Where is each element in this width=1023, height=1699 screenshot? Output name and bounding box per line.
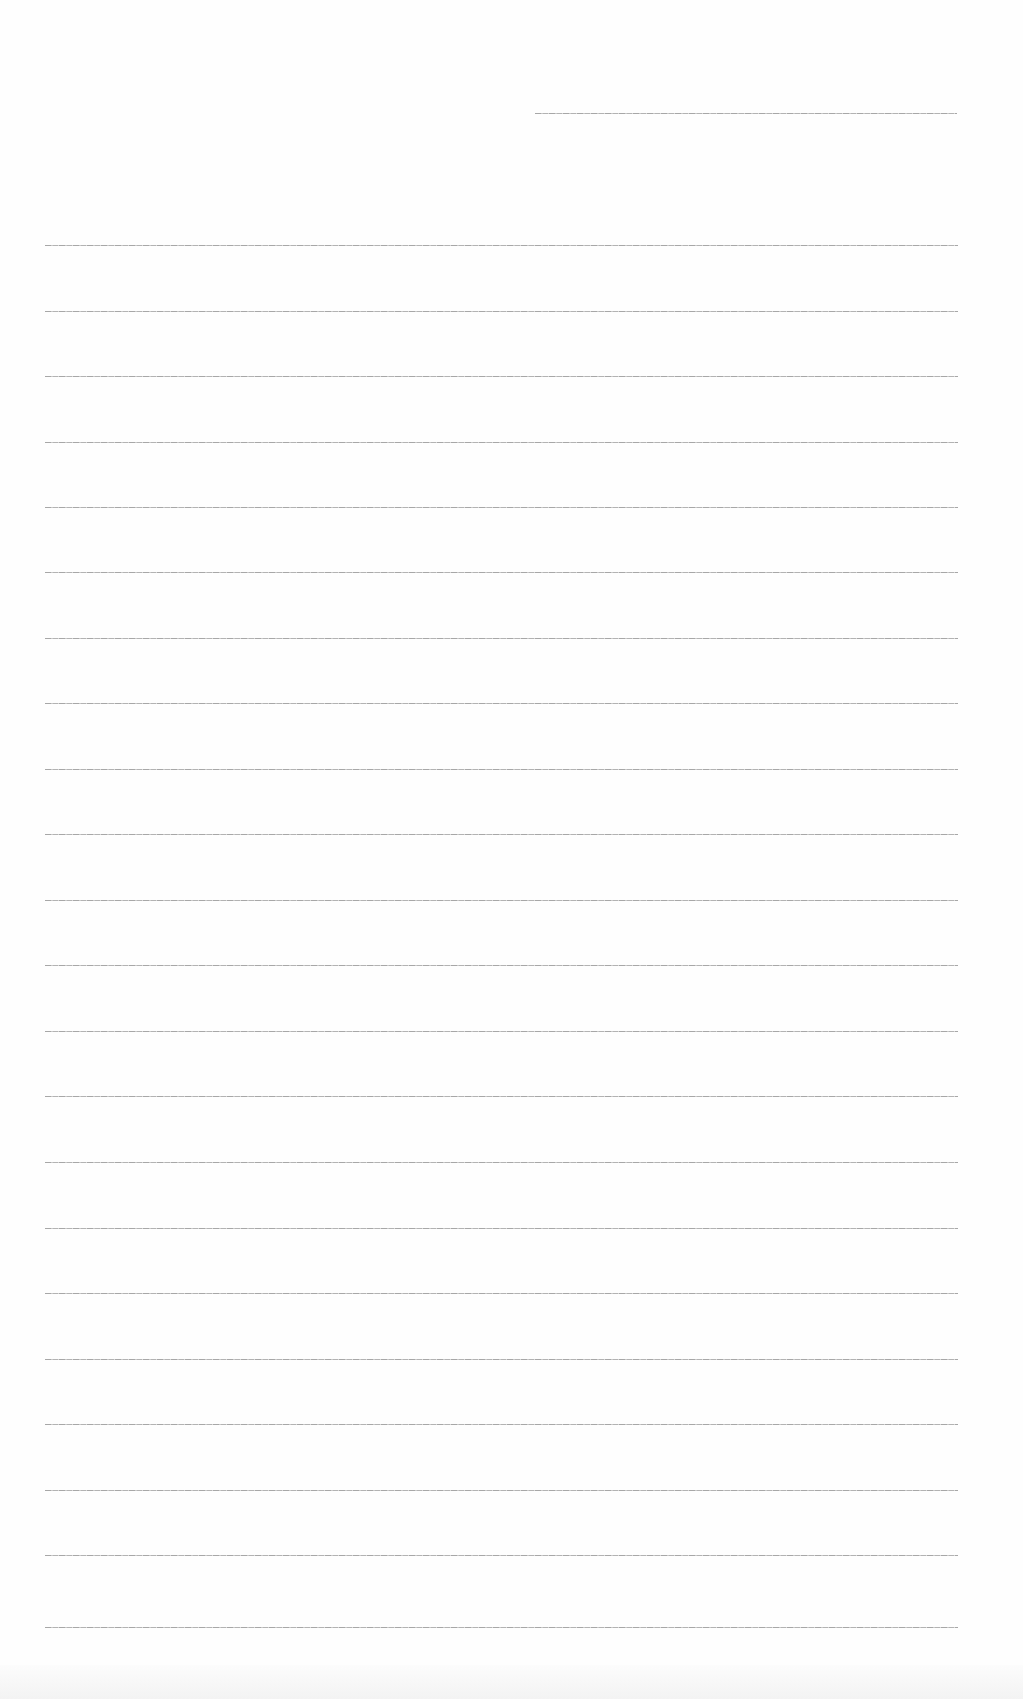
body-rule-line bbox=[45, 1096, 958, 1097]
header-rule-line bbox=[535, 113, 957, 114]
body-rule-line bbox=[45, 376, 958, 377]
body-rule-line bbox=[45, 311, 958, 312]
body-rule-line bbox=[45, 1228, 958, 1229]
body-rule-line bbox=[45, 638, 958, 639]
body-rule-line bbox=[45, 1555, 958, 1556]
body-rule-line bbox=[45, 900, 958, 901]
body-rule-line bbox=[45, 507, 958, 508]
body-rule-line bbox=[45, 769, 958, 770]
body-rule-line bbox=[45, 245, 958, 246]
ruled-paper-page bbox=[0, 0, 1023, 1699]
body-rule-line bbox=[45, 572, 958, 573]
body-rule-line bbox=[45, 834, 958, 835]
body-rule-line bbox=[45, 1359, 958, 1360]
body-rule-line bbox=[45, 1490, 958, 1491]
page-bottom-edge bbox=[0, 1665, 1023, 1699]
body-rule-line bbox=[45, 1627, 958, 1628]
body-rule-line bbox=[45, 703, 958, 704]
body-rule-line bbox=[45, 1162, 958, 1163]
body-rule-line bbox=[45, 442, 958, 443]
body-rule-line bbox=[45, 1424, 958, 1425]
body-rule-line bbox=[45, 1293, 958, 1294]
body-rule-line bbox=[45, 1031, 958, 1032]
body-rule-line bbox=[45, 965, 958, 966]
